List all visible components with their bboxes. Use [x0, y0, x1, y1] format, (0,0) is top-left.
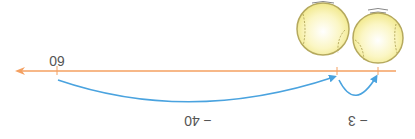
number-line	[15, 66, 396, 75]
jump-arc-minus-3	[339, 77, 376, 95]
label-minus-40: − 40	[184, 113, 212, 129]
jump-arc-minus-40	[58, 77, 334, 102]
label-minus-3: − 3	[348, 113, 368, 129]
tennis-ball-1	[297, 2, 349, 56]
tennis-ball-2	[353, 9, 403, 64]
number-line-diagram: 60 − 40 − 3	[0, 0, 415, 139]
label-60: 60	[49, 53, 65, 69]
